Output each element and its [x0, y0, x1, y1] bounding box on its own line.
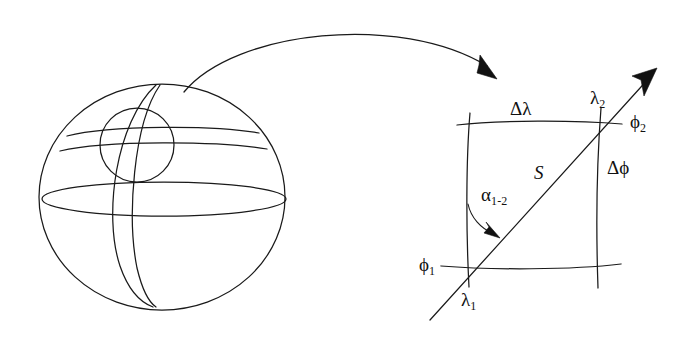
label-lambda-2-sub: 2: [599, 97, 605, 111]
label-phi-1-sub: 1: [429, 264, 435, 278]
figure-canvas: Δλ Δϕ λ2 ϕ2 ϕ1 λ1 α1-2 S: [0, 0, 696, 342]
label-delta-phi: Δϕ: [607, 158, 629, 177]
callout-arrowhead-icon: [477, 55, 497, 79]
label-lambda-2: λ2: [590, 88, 605, 110]
label-delta-phi-text: Δϕ: [607, 157, 629, 178]
cell-left-meridian: [467, 113, 470, 287]
equator-ellipse: [42, 182, 286, 216]
label-lambda-1: λ1: [461, 290, 476, 312]
geodesic-arrowhead-icon: [632, 68, 657, 96]
label-delta-lambda: Δλ: [510, 99, 531, 118]
label-delta-lambda-text: Δλ: [510, 98, 531, 119]
meridian-right: [132, 85, 160, 307]
label-phi-2-base: ϕ: [630, 111, 640, 132]
detail-region-circle: [100, 108, 174, 182]
label-distance-s-text: S: [534, 162, 544, 183]
callout-arrow-curve: [184, 34, 487, 92]
label-lambda-1-base: λ: [461, 289, 470, 310]
callout-arrow-group: [184, 34, 497, 92]
label-lambda-2-base: λ: [590, 87, 599, 108]
label-phi-1-base: ϕ: [419, 254, 429, 275]
label-distance-s: S: [534, 163, 544, 182]
label-alpha-1-2-sub: 1-2: [491, 194, 508, 208]
meridian-left: [113, 85, 156, 307]
cell-top-parallel: [457, 121, 622, 125]
graticule-cell-group: [430, 68, 657, 320]
label-phi-2: ϕ2: [630, 112, 646, 134]
geodesic-line: [430, 77, 650, 320]
sphere-group: [39, 84, 286, 310]
azimuth-arrowhead-icon: [484, 222, 500, 238]
label-phi-2-sub: 2: [640, 121, 646, 135]
latitude-arc-upper: [67, 127, 259, 136]
label-lambda-1-sub: 1: [470, 299, 476, 313]
latitude-arc-lower: [60, 143, 267, 151]
figure-vector-layer: [0, 0, 696, 342]
label-alpha-1-2-base: α: [481, 184, 491, 205]
label-alpha-1-2: α1-2: [481, 185, 508, 207]
label-phi-1: ϕ1: [419, 255, 435, 277]
